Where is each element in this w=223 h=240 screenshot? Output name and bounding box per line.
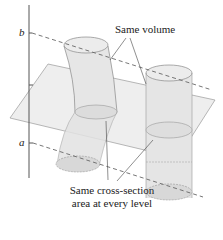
same-volume-label: Same volume — [115, 24, 175, 35]
right-cylinder — [146, 65, 192, 200]
axis-label-a: a — [19, 137, 25, 148]
leader-volume-left — [110, 38, 126, 60]
cross-section-label: Same cross-section area at every level — [62, 184, 162, 210]
axis-label-b: b — [19, 27, 25, 38]
cross-section-line1: Same cross-section — [62, 184, 162, 197]
cross-section-line2: area at every level — [62, 197, 162, 210]
leader-volume-right — [130, 38, 146, 84]
